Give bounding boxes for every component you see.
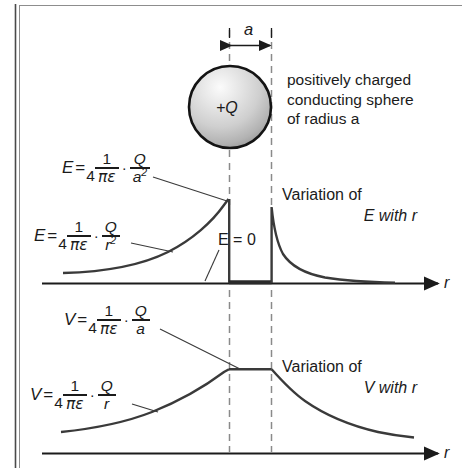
variation-v-line1: Variation of bbox=[282, 358, 362, 375]
formula-v-outside-dot: · bbox=[87, 386, 98, 403]
formula-e-surface-num: 1 bbox=[99, 151, 114, 167]
leader-e-surface bbox=[153, 177, 227, 201]
formula-e-outside-four: 4 bbox=[58, 235, 67, 253]
variation-v-label: Variation of V with r bbox=[282, 356, 417, 398]
formula-v-outside-qfrac: Q r bbox=[98, 378, 116, 412]
formula-e-surface-four: 4 bbox=[86, 167, 95, 185]
formula-v-outside-coeff: 4 1 πε bbox=[54, 378, 86, 412]
formula-v-surface-four: 4 bbox=[88, 319, 97, 337]
formula-v-surface-qden: a bbox=[136, 320, 145, 337]
v-axis-r-label: r bbox=[444, 444, 449, 462]
formula-e-outside-coeff: 4 1 πε bbox=[58, 219, 90, 253]
formula-e-surface-qden: a bbox=[133, 168, 142, 185]
formula-e-surface-qexp: 2 bbox=[141, 166, 147, 178]
formula-e-outside-den: πε bbox=[67, 237, 91, 253]
formula-v-surface-qfrac: Q a bbox=[132, 303, 150, 337]
sphere-caption: positively charged conducting sphere of … bbox=[287, 70, 414, 129]
formula-e-outside-dot: · bbox=[91, 227, 102, 244]
formula-v-outside-num: 1 bbox=[67, 378, 82, 394]
formula-v-surface-den: πε bbox=[97, 321, 121, 337]
formula-e-outside-qfrac: Q r2 bbox=[102, 219, 120, 253]
formula-v-outside-den: πε bbox=[63, 396, 87, 412]
formula-e-surface-den: πε bbox=[95, 169, 119, 185]
formula-v-surface-coeff: 4 1 πε bbox=[88, 303, 120, 337]
formula-v-surface-lhs: V bbox=[64, 310, 77, 330]
formula-v-outside-qnum: Q bbox=[98, 378, 116, 394]
leader-v-surface bbox=[160, 329, 240, 369]
e-zero-label: E = 0 bbox=[218, 232, 256, 248]
radius-label: a bbox=[244, 20, 253, 39]
leader-e-zero bbox=[205, 250, 219, 281]
leader-lines bbox=[131, 177, 240, 412]
formula-e-surface-qfrac: Q a2 bbox=[130, 151, 150, 185]
formula-v-outside-eq: = bbox=[43, 385, 54, 405]
e-axis-r-label: r bbox=[444, 274, 449, 292]
formula-e-outside-num: 1 bbox=[71, 219, 86, 235]
formula-e-surface-lhs: E bbox=[62, 158, 75, 178]
formula-v-outside-lhs: V bbox=[30, 385, 43, 405]
formula-v-outside: V = 4 1 πε · Q r bbox=[30, 378, 116, 412]
formula-v-surface-num: 1 bbox=[101, 303, 116, 319]
formula-e-surface-eq: = bbox=[75, 158, 86, 178]
variation-e-line2: E with r bbox=[282, 205, 417, 226]
formula-e-surface-coeff: 4 1 πε bbox=[86, 151, 118, 185]
sphere-charge-label: +Q bbox=[216, 99, 238, 117]
formula-v-surface-qnum: Q bbox=[132, 303, 150, 319]
formula-v-outside-qden: r bbox=[104, 395, 109, 412]
formula-v-outside-four: 4 bbox=[54, 394, 63, 412]
formula-e-outside-eq: = bbox=[47, 226, 58, 246]
formula-e-surface-dot: · bbox=[119, 159, 130, 176]
formula-e-outside-lhs: E bbox=[34, 226, 47, 246]
variation-v-line2: V with r bbox=[282, 377, 417, 398]
leader-v-outside bbox=[132, 404, 158, 412]
leader-e-outside bbox=[131, 243, 173, 252]
formula-e-surface: E = 4 1 πε · Q a2 bbox=[62, 151, 150, 185]
variation-e-line1: Variation of bbox=[282, 186, 362, 203]
formula-v-surface: V = 4 1 πε · Q a bbox=[64, 303, 150, 337]
variation-e-label: Variation of E with r bbox=[282, 184, 417, 226]
formula-e-outside-qexp: 2 bbox=[110, 234, 116, 246]
formula-v-surface-dot: · bbox=[121, 311, 132, 328]
formula-e-outside: E = 4 1 πε · Q r2 bbox=[34, 219, 120, 253]
formula-v-surface-eq: = bbox=[77, 310, 88, 330]
physics-figure: a +Q positively charged conducting spher… bbox=[0, 0, 463, 472]
